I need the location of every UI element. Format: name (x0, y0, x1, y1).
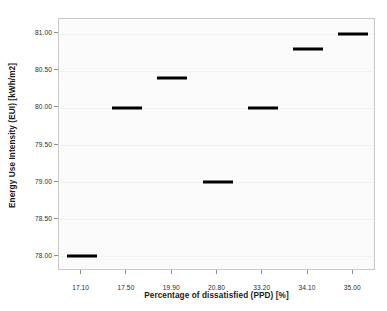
data-point-marker (157, 77, 187, 80)
y-tick-label: 80.50 (35, 66, 52, 73)
gridline (59, 71, 374, 72)
gridline (59, 219, 374, 220)
x-tick-mark (80, 270, 81, 274)
y-tick-78.50: 78.50 (35, 213, 58, 223)
data-point-marker (293, 47, 323, 50)
y-tick-label: 79.50 (35, 141, 52, 148)
x-tick-mark (352, 270, 353, 274)
y-tick-label: 79.00 (35, 178, 52, 185)
gridline (59, 108, 374, 109)
x-tick-label: 17.10 (72, 284, 89, 291)
y-tick-label: 78.00 (35, 252, 52, 259)
x-tick-mark (216, 270, 217, 274)
data-point-marker (67, 255, 97, 258)
data-point-marker (248, 106, 278, 109)
y-tick-81.00: 81.00 (35, 28, 58, 38)
x-tick-mark (261, 270, 262, 274)
y-tick-label: 80.00 (35, 103, 52, 110)
gridline (59, 145, 374, 146)
y-tick-80.50: 80.50 (35, 65, 58, 75)
data-point-marker (112, 106, 142, 109)
gridline (59, 256, 374, 257)
x-tick-label: 17.50 (117, 284, 134, 291)
chart-figure: Energy Use Intensity (EUI) [kWh/m2] 78.0… (0, 0, 387, 311)
y-tick-label: 81.00 (35, 29, 52, 36)
x-axis-ticks: 17.1017.5019.9020.8033.2034.1035.00 (58, 270, 375, 290)
y-axis-ticks: 78.0078.5079.0079.5080.0080.5081.00 (22, 0, 58, 311)
gridline (59, 34, 374, 35)
x-tick-label: 33.20 (253, 284, 270, 291)
y-tick-80.00: 80.00 (35, 102, 58, 112)
y-axis-title-text: Energy Use Intensity (EUI) [kWh/m2] (8, 63, 17, 208)
y-tick-79.50: 79.50 (35, 139, 58, 149)
x-tick-mark (307, 270, 308, 274)
y-tick-79.00: 79.00 (35, 176, 58, 186)
data-point-marker (338, 32, 368, 35)
y-tick-label: 78.50 (35, 215, 52, 222)
x-tick-label: 35.00 (344, 284, 361, 291)
data-point-marker (203, 181, 233, 184)
x-tick-mark (125, 270, 126, 274)
x-tick-label: 34.10 (299, 284, 316, 291)
y-axis-title: Energy Use Intensity (EUI) [kWh/m2] (0, 0, 24, 270)
y-tick-78.00: 78.00 (35, 250, 58, 260)
x-axis-title: Percentage of dissatisfied (PPD) [%] (58, 291, 375, 300)
x-tick-mark (171, 270, 172, 274)
x-tick-label: 20.80 (208, 284, 225, 291)
plot-area (58, 18, 375, 270)
x-tick-label: 19.90 (163, 284, 180, 291)
